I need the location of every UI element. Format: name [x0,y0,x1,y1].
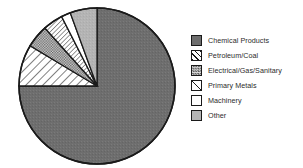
pie-chart-figure: Chemical Products Petroleum/Coal Electri… [0,0,303,168]
legend-item-petroleum-coal[interactable]: Petroleum/Coal [191,48,303,63]
legend-item-electrical-gas-sanitary[interactable]: Electrical/Gas/Sanitary [191,63,303,78]
legend-item-machinery[interactable]: Machinery [191,93,303,108]
legend-item-primary-metals[interactable]: Primary Metals [191,78,303,93]
legend-label: Machinery [208,97,242,104]
legend-label: Chemical Products [208,37,269,44]
checker-dot-swatch-icon [191,65,202,76]
legend-item-other[interactable]: Other [191,108,303,123]
pie-svg [0,0,190,168]
pie-chart-plot [0,0,190,168]
legend-label: Primary Metals [208,82,257,89]
legend-label: Other [208,112,226,119]
legend-label: Petroleum/Coal [208,52,258,59]
single-diagonal-swatch-icon [191,80,202,91]
solid-dark-gray-swatch-icon [191,35,202,46]
legend: Chemical Products Petroleum/Coal Electri… [191,33,303,133]
legend-item-chemical-products[interactable]: Chemical Products [191,33,303,48]
legend-label: Electrical/Gas/Sanitary [208,67,282,74]
solid-light-gray-swatch-icon [191,110,202,121]
white-swatch-icon [191,95,202,106]
diagonal-hatch-swatch-icon [191,50,202,61]
